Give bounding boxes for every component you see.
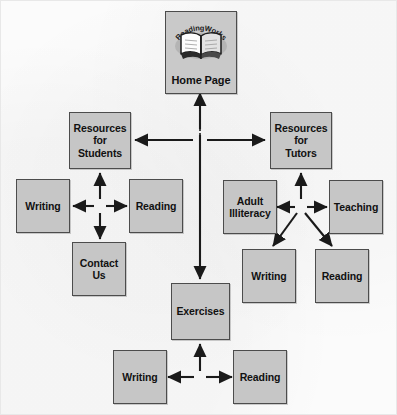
node-resources-for-students-label: Resources for Students [72,122,129,160]
node-tutors-writing[interactable]: Writing [242,249,296,303]
node-exercises-writing-label: Writing [120,371,159,384]
node-students-writing[interactable]: Writing [16,179,70,233]
node-students-writing-label: Writing [23,200,62,213]
node-exercises-writing[interactable]: Writing [113,350,167,404]
node-exercises-reading-label: Reading [238,371,283,384]
node-exercises[interactable]: Exercises [171,283,230,340]
rs-line2: for [93,134,107,146]
node-teaching-label: Teaching [332,201,381,214]
rt-line3: Tutors [285,147,316,159]
node-resources-for-students[interactable]: Resources for Students [69,112,131,169]
node-tutors-writing-label: Writing [249,270,288,283]
ai-line1: Adult [237,195,263,207]
rt-line1: Resources [275,122,328,134]
node-exercises-reading[interactable]: Reading [233,350,287,404]
node-students-reading[interactable]: Reading [129,179,183,233]
node-tutors-reading[interactable]: Reading [315,249,369,303]
node-tutors-reading-label: Reading [320,270,365,283]
node-exercises-label: Exercises [174,305,226,318]
node-home-page[interactable]: ReadingWorks Home Page [165,11,237,94]
rs-line3: Students [78,147,122,159]
node-students-reading-label: Reading [134,200,179,213]
node-resources-for-tutors-label: Resources for Tutors [273,122,330,160]
node-adult-illiteracy[interactable]: Adult Illiteracy [223,180,277,234]
node-contact-us-label: Contact Us [78,257,120,282]
readingworks-logo: ReadingWorks [170,18,232,64]
node-adult-illiteracy-label: Adult Illiteracy [227,195,273,220]
node-contact-us[interactable]: Contact Us [72,242,126,296]
cu-line1: Contact [80,257,118,269]
rs-line1: Resources [74,122,127,134]
node-home-page-label: Home Page [171,74,230,87]
rt-line2: for [294,134,308,146]
node-teaching[interactable]: Teaching [329,180,383,234]
node-resources-for-tutors[interactable]: Resources for Tutors [270,112,332,169]
diagram-canvas: ReadingWorks Home Page [0,0,397,415]
cu-line2: Us [92,269,105,281]
ai-line2: Illiteracy [229,207,271,219]
